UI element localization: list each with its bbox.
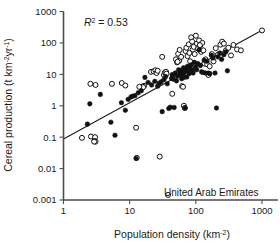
- y-tick-label: 0.001: [33, 194, 57, 205]
- data-point: [197, 43, 202, 48]
- y-tick-label: 100: [41, 37, 57, 48]
- data-point: [229, 53, 234, 58]
- data-point: [177, 47, 182, 52]
- y-tick-label: 0.01: [38, 163, 57, 174]
- data-point: [172, 105, 177, 110]
- data-point: [205, 59, 210, 64]
- y-tick-labels: 0.0010.010.11101001000: [33, 6, 57, 206]
- data-point: [143, 75, 148, 80]
- open-circle-series: [79, 28, 264, 198]
- x-tick-labels: 1101001000: [61, 205, 273, 216]
- data-point: [182, 66, 187, 71]
- data-point: [170, 72, 175, 77]
- data-point: [194, 67, 199, 72]
- data-point: [211, 56, 216, 61]
- data-point: [123, 108, 128, 113]
- uae-callout-label: United Arab Emirates: [164, 187, 259, 198]
- data-point: [153, 79, 158, 84]
- data-point: [219, 57, 224, 62]
- data-point: [238, 48, 243, 53]
- data-point: [171, 77, 176, 82]
- r-squared-annotation: R2 = 0.53: [84, 16, 128, 28]
- data-point: [260, 28, 265, 33]
- data-point: [160, 54, 165, 59]
- data-point: [134, 156, 139, 161]
- data-point: [183, 106, 188, 111]
- data-point: [113, 133, 118, 138]
- data-point: [93, 82, 98, 87]
- data-point: [214, 106, 219, 111]
- data-point: [192, 52, 197, 57]
- data-point: [197, 48, 202, 53]
- data-point: [163, 74, 168, 79]
- y-axis-title: Cereal production (t km-2yr-1): [2, 38, 14, 171]
- y-tick-label: 1000: [35, 6, 56, 17]
- data-point: [231, 42, 236, 47]
- x-tick-label: 10: [124, 205, 135, 216]
- x-tick-label: 1: [61, 205, 66, 216]
- data-point: [181, 84, 186, 89]
- data-point: [92, 139, 97, 144]
- data-point: [165, 81, 170, 86]
- data-point: [198, 63, 203, 68]
- data-point: [119, 100, 124, 105]
- data-point: [190, 39, 195, 44]
- data-point: [88, 102, 93, 107]
- data-point: [130, 94, 135, 99]
- data-point: [224, 50, 229, 55]
- data-point: [79, 135, 84, 140]
- data-point: [109, 81, 114, 86]
- y-tick-label: 1: [51, 100, 56, 111]
- data-point: [159, 79, 164, 84]
- data-point: [221, 41, 226, 46]
- data-point: [179, 54, 184, 59]
- data-point: [191, 71, 196, 76]
- data-point: [139, 88, 144, 93]
- data-point: [170, 91, 175, 96]
- data-point: [225, 68, 230, 73]
- y-tick-label: 0.1: [43, 132, 56, 143]
- data-point: [155, 68, 160, 73]
- data-point: [123, 83, 128, 88]
- data-point: [208, 71, 213, 76]
- data-point: [85, 122, 90, 127]
- data-point: [182, 75, 187, 80]
- data-point: [88, 81, 93, 86]
- data-point: [201, 48, 206, 53]
- data-point: [126, 97, 131, 102]
- data-point: [160, 109, 165, 114]
- x-tick-label: 1000: [251, 205, 272, 216]
- data-point: [98, 92, 103, 97]
- tick-marks: [60, 12, 263, 205]
- data-point: [207, 64, 212, 69]
- data-point: [193, 33, 198, 38]
- x-axis-title: Population density (km-2): [114, 228, 230, 240]
- data-point: [109, 120, 114, 125]
- data-point: [157, 154, 162, 159]
- x-tick-label: 100: [188, 205, 204, 216]
- chart-canvas: 0.0010.010.11101001000 1101001000 Popula…: [0, 0, 280, 245]
- y-tick-label: 10: [46, 69, 57, 80]
- data-point: [175, 59, 180, 64]
- cereal-production-scatter-figure: 0.0010.010.11101001000 1101001000 Popula…: [0, 0, 280, 245]
- data-point: [134, 125, 139, 130]
- data-point: [213, 71, 218, 76]
- data-point: [213, 46, 218, 51]
